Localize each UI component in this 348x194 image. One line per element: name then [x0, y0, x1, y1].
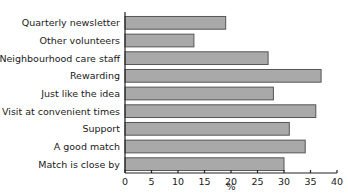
category-label: Rewarding: [70, 70, 120, 81]
category-label: Neighbourhood care staff: [0, 53, 120, 64]
bar-quarterly-newsletter: [125, 16, 226, 29]
bar-support: [125, 122, 289, 135]
bar-just-like-the-idea: [125, 87, 273, 100]
bar-rewarding: [125, 69, 321, 82]
bar-a-good-match: [125, 140, 305, 153]
bars-group: [125, 16, 321, 170]
bar-other-volunteers: [125, 34, 194, 47]
category-label: Visit at convenient times: [2, 106, 120, 117]
x-tick-label: 5: [148, 176, 154, 187]
bar-match-is-close-by: [125, 158, 284, 171]
category-label: A good match: [54, 141, 120, 152]
category-label: Match is close by: [38, 159, 120, 170]
category-label: Quarterly newsletter: [22, 17, 120, 28]
category-label: Other volunteers: [40, 35, 120, 46]
x-tick-label: 30: [278, 176, 290, 187]
x-tick-label: 40: [331, 176, 343, 187]
x-tick-label: 10: [172, 176, 184, 187]
category-label: Support: [82, 123, 120, 134]
bar-chart: Quarterly newsletterOther volunteersNeig…: [0, 0, 348, 194]
bar-visit-at-convenient-times: [125, 105, 316, 118]
bar-neighbourhood-care-staff: [125, 52, 268, 65]
x-tick-label: 0: [122, 176, 128, 187]
x-tick-label: 35: [304, 176, 316, 187]
x-tick-label: 25: [251, 176, 263, 187]
x-axis-title: %: [226, 181, 235, 192]
category-label: Just like the idea: [40, 88, 120, 99]
x-tick-label: 15: [198, 176, 210, 187]
category-labels: Quarterly newsletterOther volunteersNeig…: [0, 17, 120, 169]
